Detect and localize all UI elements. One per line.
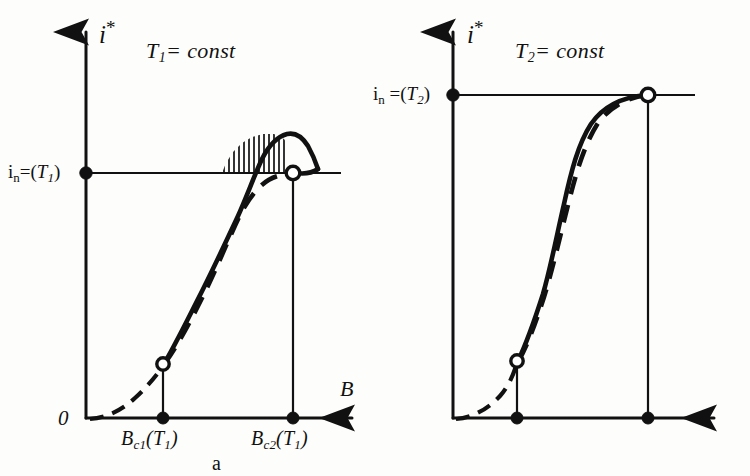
bc1-curve-marker-a: [157, 358, 169, 370]
xtick-bc1-arg-sub-a: 1: [164, 437, 171, 452]
condition-sub-a: 1: [159, 50, 166, 65]
panel-b-plot: [375, 0, 750, 476]
bc2-axis-dot-b: [642, 412, 654, 424]
xtick-bc2-B-a: B: [251, 427, 263, 449]
xtick-bc1-open-a: (T: [146, 427, 164, 449]
y-axis-label-i-b: i: [467, 21, 474, 48]
xtick-bc1-close-a: ): [171, 427, 178, 449]
in-label-eq-a: =(: [20, 161, 37, 182]
bc2-curve-marker-a: [286, 166, 300, 180]
in-level-label-b: in =(T2): [373, 84, 430, 106]
y-axis-label-star-a: *: [106, 17, 116, 38]
panel-b: i* T2= const in =(T2) 0 B Bc1(T2) Bc2(T2…: [375, 0, 750, 476]
hatched-region-a: [224, 128, 284, 175]
in-label-eq-b: =(: [390, 83, 407, 104]
in-label-arg-a: T1: [37, 161, 54, 182]
dashed-curve-upper-a: [165, 173, 292, 363]
bc2-axis-dot-a: [287, 412, 299, 424]
xtick-bc2-open-a: (T: [276, 427, 294, 449]
xtick-label-bc2-a: Bc2(T1): [251, 428, 308, 451]
xtick-bc1-B-a: B: [121, 427, 133, 449]
dashed-curve-lower-b: [456, 363, 517, 419]
in-label-T-a: T: [37, 161, 48, 182]
bc1-axis-dot-b: [511, 412, 523, 424]
condition-T-a: T: [146, 38, 159, 63]
x-axis-label-a: B: [340, 378, 353, 400]
condition-label-a: T1= const: [146, 40, 236, 65]
bc1-curve-marker-b: [511, 355, 523, 367]
xtick-bc2-sub-a: c2: [263, 437, 276, 452]
panel-a-plot: [0, 0, 375, 476]
origin-label-a: 0: [58, 408, 69, 429]
condition-label-b: T2= const: [515, 40, 605, 65]
in-label-sub-b: n: [378, 92, 385, 107]
in-label-close-b: ): [424, 83, 430, 104]
y-axis-label-b: i*: [467, 18, 483, 47]
condition-eq-b: = const: [535, 38, 605, 63]
in-level-dot-b: [447, 89, 459, 101]
condition-T-b: T: [515, 38, 528, 63]
y-axis-label-i-a: i: [99, 21, 106, 48]
panel-a: i* T1= const in=(T1) 0 B Bc1(T1) Bc2(T1)…: [0, 0, 375, 476]
xtick-label-bc1-a: Bc1(T1): [121, 428, 178, 451]
xtick-bc2-arg-sub-a: 1: [294, 437, 301, 452]
bc2-curve-marker-b: [641, 88, 655, 102]
figure-root: i* T1= const in=(T1) 0 B Bc1(T1) Bc2(T1)…: [0, 0, 750, 476]
y-axis-label-a: i*: [99, 18, 115, 47]
in-label-T-b: T: [407, 83, 418, 104]
y-axis-label-star-b: *: [474, 17, 484, 38]
panel-caption-a: a: [212, 453, 221, 473]
in-label-arg-b: T2: [407, 83, 424, 104]
condition-eq-a: = const: [166, 38, 236, 63]
xtick-bc2-close-a: ): [301, 427, 308, 449]
in-level-dot-a: [80, 167, 92, 179]
in-level-label-a: in=(T1): [8, 162, 60, 184]
in-label-close-a: ): [54, 161, 60, 182]
bc1-axis-dot-a: [157, 412, 169, 424]
xtick-bc1-sub-a: c1: [133, 437, 146, 452]
dashed-curve-lower-a: [90, 366, 163, 419]
condition-sub-b: 2: [528, 50, 535, 65]
